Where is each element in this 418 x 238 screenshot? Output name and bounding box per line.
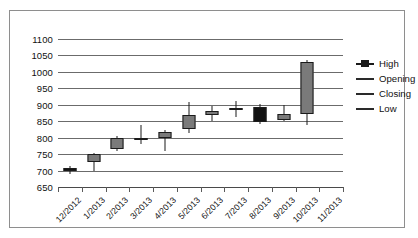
y-axis-tick-label: 700 xyxy=(37,165,53,176)
candlestick xyxy=(203,39,221,187)
y-axis-tick-label: 750 xyxy=(37,149,53,160)
candlestick xyxy=(61,39,79,187)
candlestick xyxy=(227,39,245,187)
y-axis-tick-label: 900 xyxy=(37,99,53,110)
candlestick-body xyxy=(158,132,171,139)
line-marker-icon xyxy=(356,93,374,95)
x-axis-tick xyxy=(319,187,320,192)
chart-legend: HighOpeningClosingLow xyxy=(356,57,418,117)
x-axis-tick xyxy=(82,187,83,192)
chart-frame: 650700750800850900950100010501100 12/201… xyxy=(9,10,405,228)
x-axis-tick-label: 5/2013 xyxy=(176,195,202,221)
candlestick-body xyxy=(301,62,314,114)
x-axis-tick xyxy=(177,187,178,192)
x-axis-tick-label: 4/2013 xyxy=(152,195,178,221)
candlestick xyxy=(180,39,198,187)
candlestick-body xyxy=(206,111,219,114)
x-axis-tick-label: 11/2013 xyxy=(315,195,344,224)
legend-label: High xyxy=(379,57,399,71)
legend-label: Closing xyxy=(379,87,411,101)
plot-area: 650700750800850900950100010501100 12/201… xyxy=(58,39,343,187)
candlestick-body xyxy=(135,138,148,140)
y-axis-tick-label: 1000 xyxy=(31,66,53,77)
line-marker-icon xyxy=(356,108,374,110)
candlestick-body xyxy=(182,115,195,128)
x-axis-tick xyxy=(58,187,59,192)
x-axis-tick-label: 7/2013 xyxy=(223,195,249,221)
x-axis-tick xyxy=(201,187,202,192)
x-axis-tick xyxy=(296,187,297,192)
candlestick xyxy=(132,39,150,187)
candlestick xyxy=(156,39,174,187)
x-axis-tick-label: 12/2012 xyxy=(53,195,83,225)
candlestick-wick xyxy=(141,125,142,144)
y-axis-tick-label: 650 xyxy=(37,182,53,193)
x-axis-tick-label: 6/2013 xyxy=(199,195,225,221)
x-axis-tick xyxy=(224,187,225,192)
candlestick xyxy=(251,39,269,187)
x-axis-tick-label: 1/2013 xyxy=(81,195,107,221)
candlestick-body xyxy=(277,114,290,120)
y-axis-tick-label: 1100 xyxy=(32,34,53,45)
candlestick xyxy=(85,39,103,187)
candlestick-body xyxy=(253,107,266,122)
legend-item: High xyxy=(356,57,418,72)
y-axis-tick-label: 950 xyxy=(37,83,53,94)
legend-item: Low xyxy=(356,102,418,117)
y-axis-tick-label: 850 xyxy=(37,116,53,127)
x-axis-tick xyxy=(129,187,130,192)
candlestick-body xyxy=(230,108,243,110)
candlestick xyxy=(108,39,126,187)
x-axis-tick-label: 2/2013 xyxy=(104,195,130,221)
x-axis-tick xyxy=(106,187,107,192)
high-low-marker-icon xyxy=(356,60,374,67)
x-axis-tick-label: 3/2013 xyxy=(128,195,154,221)
candlestick-body xyxy=(111,138,124,150)
candlestick-body xyxy=(63,168,76,170)
x-axis-tick xyxy=(272,187,273,192)
x-axis-tick xyxy=(248,187,249,192)
legend-item: Opening xyxy=(356,72,418,87)
legend-label: Low xyxy=(379,102,397,116)
y-axis-tick-label: 800 xyxy=(37,132,53,143)
x-axis-tick xyxy=(153,187,154,192)
candlestick xyxy=(275,39,293,187)
y-axis-tick-label: 1050 xyxy=(31,50,53,61)
x-axis-tick xyxy=(343,187,344,192)
legend-label: Opening xyxy=(379,72,415,86)
line-marker-icon xyxy=(356,78,374,80)
legend-item: Closing xyxy=(356,87,418,102)
candlestick-body xyxy=(87,154,100,162)
candlestick xyxy=(298,39,316,187)
x-axis-tick-label: 8/2013 xyxy=(247,195,273,221)
